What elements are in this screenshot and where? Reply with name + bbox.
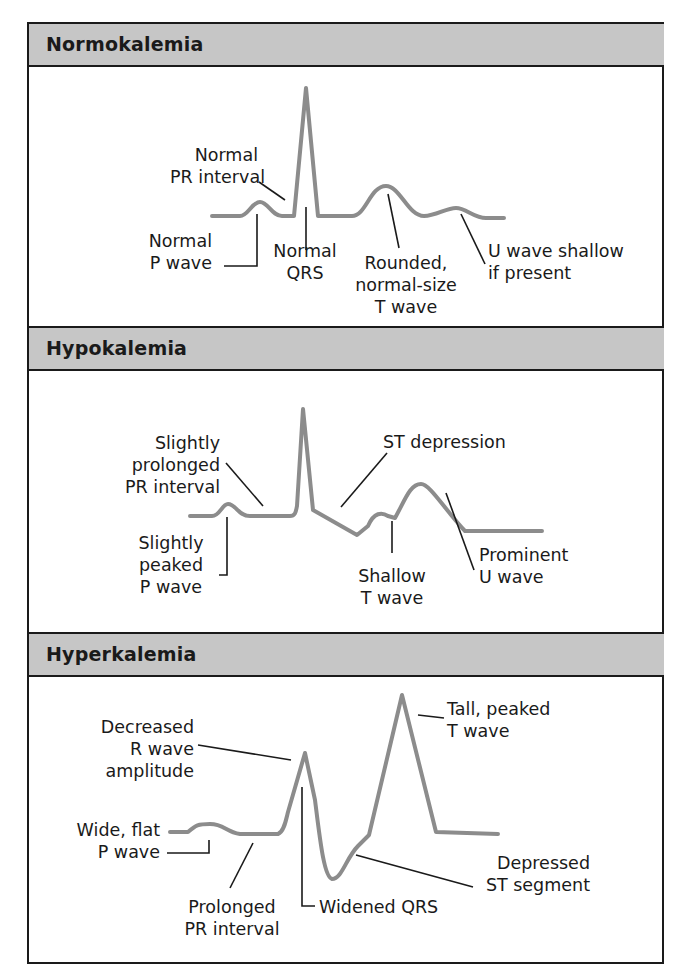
label-p-wave: Normal P wave [120,230,212,274]
label-qrs: Normal QRS [262,240,348,284]
label-line: Prolonged [174,896,290,918]
label-r-wave: Decreased R wave amplitude [82,716,194,782]
label-line: Rounded, [344,252,468,274]
leader-qrs [302,787,315,906]
leader-p [219,517,227,575]
label-pr-interval: Prolonged PR interval [174,896,290,940]
label-st-segment: Depressed ST segment [466,852,590,896]
leader-st [341,453,387,507]
label-line: QRS [262,262,348,284]
label-pr-interval: Slightly prolonged PR interval [110,432,220,498]
label-line: ST segment [466,874,590,896]
label-line: peaked [126,554,216,576]
label-line: Wide, flat [50,819,160,841]
label-u-wave: Prominent U wave [479,544,568,588]
leader-p [224,214,257,266]
label-line: if present [488,262,624,284]
label-line: Decreased [82,716,194,738]
leader-pr [230,843,253,888]
label-line: PR interval [110,476,220,498]
label-line: Normal [120,230,212,252]
leader-st [356,855,473,887]
leader-pr [226,463,263,506]
label-line: normal-size [344,274,468,296]
label-line: amplitude [82,760,194,782]
label-line: Tall, peaked [447,698,550,720]
label-line: P wave [126,576,216,598]
label-line: T wave [344,296,468,318]
label-line: Normal [170,144,258,166]
label-line: U wave [479,566,568,588]
label-line: Prominent [479,544,568,566]
label-p-wave: Wide, flat P wave [50,819,160,863]
leader-r [198,745,291,760]
label-p-wave: Slightly peaked P wave [126,532,216,598]
label-line: PR interval [170,166,258,188]
label-t-wave: Shallow T wave [344,565,440,609]
label-line: P wave [50,841,160,863]
label-line: Slightly [110,432,220,454]
label-line: T wave [344,587,440,609]
label-line: Shallow [344,565,440,587]
label-qrs: Widened QRS [319,896,438,918]
leader-t [418,715,444,718]
label-line: T wave [447,720,550,742]
label-line: U wave shallow [488,240,624,262]
label-line: Depressed [466,852,590,874]
label-line: Widened QRS [319,896,438,918]
label-pr-interval: Normal PR interval [170,144,258,188]
label-line: prolonged [110,454,220,476]
label-line: ST depression [383,431,506,453]
label-line: Slightly [126,532,216,554]
leader-t [388,194,399,248]
label-line: PR interval [174,918,290,940]
label-line: R wave [82,738,194,760]
label-line: Normal [262,240,348,262]
label-u-wave: U wave shallow if present [488,240,624,284]
label-st-depression: ST depression [383,431,506,453]
hypokalemia-trace [190,409,542,535]
leader-p [167,840,209,853]
label-t-wave: Tall, peaked T wave [447,698,550,742]
label-t-wave: Rounded, normal-size T wave [344,252,468,318]
label-line: P wave [120,252,212,274]
